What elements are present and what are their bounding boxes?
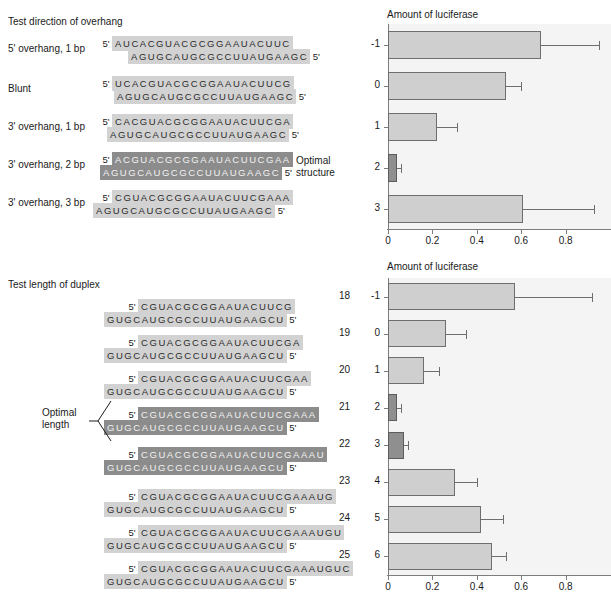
y-axis-label: 0 — [356, 327, 380, 338]
sequence-bases: AGUGCAUGCGCCUUAUGAAGC — [107, 127, 289, 142]
error-bar-line — [446, 334, 466, 335]
y-axis-label: 2 — [356, 401, 380, 412]
x-axis-tick-label: 0.8 — [551, 235, 581, 246]
y-axis-tick — [384, 297, 388, 298]
y-axis-tick — [384, 86, 388, 87]
x-axis-line — [387, 575, 611, 576]
error-bar-cap — [466, 330, 467, 339]
duplex-length-label: 25 — [326, 549, 350, 560]
y-axis-tick — [384, 556, 388, 557]
optimal-length-bracket — [88, 395, 112, 447]
optimal-length-label: Optimal length — [42, 407, 76, 431]
five-prime-label: 5' — [289, 128, 301, 141]
error-bar-line — [437, 127, 457, 128]
sequence-bases: GUGCAUGCGCCUUAUGAAGCU — [104, 538, 287, 553]
sequence-row-label: 3' overhang, 2 bp — [8, 159, 85, 170]
bar — [388, 31, 541, 59]
panel-length-of-duplex: Test length of duplex 5'CGUACGCGGAAUACUU… — [0, 255, 360, 596]
strand: 5'AUCACGUACGCGGAAUACUUC — [100, 36, 322, 49]
duplex: 5'CGUACGCGGAAUACUUCGAAAUGUGCAUGCGCCUUAUG… — [104, 447, 327, 473]
strand: 5'CGUACGCGGAAUACUUCGAAAUGUC — [126, 561, 353, 574]
duplex: 5'CGUACGCGGAAUACUUCGGUGCAUGCGCCUUAUGAAGC… — [104, 299, 299, 325]
strand: AGUGCAUGCGCCUUAUGAAGC5' — [114, 89, 308, 102]
strand: GUGCAUGCGCCUUAUGAAGCU5' — [104, 502, 336, 515]
x-axis-tick — [566, 576, 567, 580]
error-bar-cap — [401, 164, 402, 173]
strand: GUGCAUGCGCCUUAUGAAGCU5' — [104, 420, 319, 433]
sequence-row: 5'CGUACGCGGAAUACUUCGAGUGCAUGCGCCUUAUGAAG… — [0, 335, 360, 365]
bar — [388, 506, 481, 533]
error-bar-cap — [477, 478, 478, 487]
x-axis-tick-label: 0.6 — [506, 235, 536, 246]
x-axis-tick — [566, 230, 567, 234]
strand: 5'CGUACGCGGAAUACUUCGAAAUGU — [126, 525, 344, 538]
duplex: 5'ACGUACGCGGAAUACUUCGAAAGUGCAUGCGCCUUAUG… — [100, 152, 294, 178]
x-axis-line — [387, 229, 611, 230]
sequence-row: 5'CGUACGCGGAAUACUUCGGUGCAUGCGCCUUAUGAAGC… — [0, 299, 360, 329]
x-axis-tick — [388, 576, 389, 580]
duplex: 5'CGUACGCGGAAUACUUCGAGUGCAUGCGCCUUAUGAAG… — [104, 335, 303, 361]
five-prime-label: 5' — [275, 204, 287, 217]
bar — [388, 320, 446, 347]
error-bar-cap — [439, 367, 440, 376]
strand: GUGCAUGCGCCUUAUGAAGCU5' — [104, 348, 303, 361]
sequence-bases: GUGCAUGCGCCUUAUGAAGCU — [104, 348, 287, 363]
x-axis-tick-label: 0.6 — [506, 581, 536, 592]
overhang-chart: Amount of luciferase -1012300.20.40.60.8 — [355, 0, 611, 250]
five-prime-label: 5' — [296, 90, 308, 103]
x-axis-tick-label: 0 — [373, 235, 403, 246]
x-axis-tick — [521, 576, 522, 580]
strand: 5'CGUACGCGGAAUACUUCGA — [126, 335, 303, 348]
bar — [388, 72, 506, 100]
duplex: 5'CACGUACGCGGAAUACUUCGAAGUGCAUGCGCCUUAUG… — [100, 114, 301, 140]
error-bar-cap — [457, 123, 458, 132]
duplex: 5'CGUACGCGGAAUACUUCGAAAUGGUGCAUGCGCCUUAU… — [104, 489, 336, 515]
error-bar-cap — [521, 82, 522, 91]
sequence-bases: GUGCAUGCGCCUUAUGAAGCU — [104, 384, 287, 399]
error-bar-cap — [594, 205, 595, 214]
strand: 5'CGUACGCGGAAUACUUCGAAAU — [126, 447, 327, 460]
five-prime-label: 5' — [310, 50, 322, 63]
x-axis-tick — [521, 230, 522, 234]
five-prime-label: 5' — [287, 575, 299, 588]
duplex-length-label: 21 — [326, 401, 350, 412]
sequence-bases: GUGCAUGCGCCUUAUGAAGCU — [104, 420, 287, 435]
error-bar-line — [492, 556, 505, 557]
sequence-bases: AGUGCAUGCGCCUUAUGAAGC — [93, 203, 275, 218]
sequence-row-label: Blunt — [8, 83, 31, 94]
error-bar-line — [506, 86, 522, 87]
optimal-structure-note: Optimal structure — [296, 155, 335, 179]
error-bar-line — [424, 371, 440, 372]
strand: 5'CGUACGCGGAAUACUUCGAAA — [126, 407, 319, 420]
sequence-row: 3' overhang, 3 bp5'CGUACGCGGAAUACUUCGAAA… — [0, 190, 360, 220]
optimal-structure-note-line1: Optimal — [296, 155, 330, 166]
bar — [388, 543, 492, 570]
five-prime-label: 5' — [287, 461, 299, 474]
sequence-bases: AGUGCAUGCGCCUUAUGAAGC — [100, 165, 282, 180]
sequence-row: 5'CGUACGCGGAAUACUUCGAAAUGUGUGCAUGCGCCUUA… — [0, 525, 360, 555]
strand: GUGCAUGCGCCUUAUGAAGCU5' — [104, 460, 327, 473]
error-bar-cap — [408, 441, 409, 450]
duplex: 5'CGUACGCGGAAUACUUCGAAAUGUCGUGCAUGCGCCUU… — [104, 561, 353, 587]
x-axis-tick — [477, 576, 478, 580]
sequence-bases: GUGCAUGCGCCUUAUGAAGCU — [104, 460, 287, 475]
duplex: 5'CGUACGCGGAAUACUUCGAAGUGCAUGCGCCUUAUGAA… — [104, 371, 311, 397]
error-bar-line — [515, 297, 593, 298]
sequence-bases: GUGCAUGCGCCUUAUGAAGCU — [104, 502, 287, 517]
duplex-length-label: 18 — [326, 290, 350, 301]
duplex-length-label: 22 — [326, 438, 350, 449]
overhang-chart-title: Amount of luciferase — [387, 9, 478, 20]
y-axis-label: 1 — [356, 364, 380, 375]
bar — [388, 283, 515, 310]
strand: GUGCAUGCGCCUUAUGAAGCU5' — [104, 574, 353, 587]
strand: 5'CGUACGCGGAAUACUUCGAA — [126, 371, 311, 384]
strand: 5'CGUACGCGGAAUACUUCGAAAUG — [126, 489, 336, 502]
x-axis-tick-label: 0.2 — [417, 235, 447, 246]
five-prime-label: 5' — [287, 385, 299, 398]
y-axis-label: 1 — [356, 120, 380, 131]
error-bar-cap — [401, 404, 402, 413]
y-axis-tick — [384, 45, 388, 46]
y-axis-label: 2 — [356, 161, 380, 172]
y-axis-tick — [384, 519, 388, 520]
duplex-length-label: 23 — [326, 475, 350, 486]
